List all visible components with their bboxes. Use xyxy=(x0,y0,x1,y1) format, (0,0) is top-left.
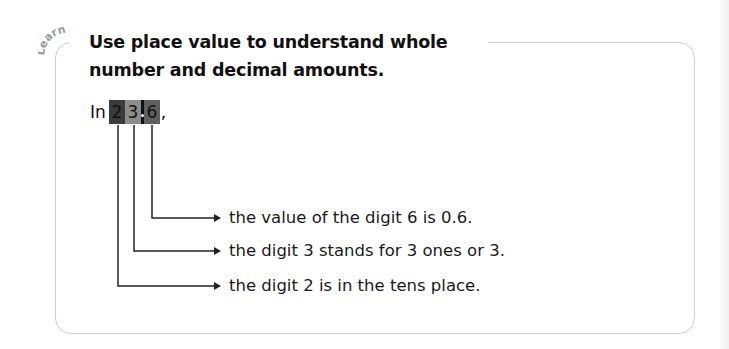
learn-label: Learn xyxy=(38,24,78,58)
example-intro: In xyxy=(90,102,106,122)
digit-tenths: 6 xyxy=(144,100,160,124)
digit-ones: 3 xyxy=(125,100,141,124)
decimal-dot xyxy=(141,114,144,117)
example-comma: , xyxy=(161,102,166,122)
decimal-point xyxy=(141,100,144,124)
digit-tens: 2 xyxy=(109,100,125,124)
statement-ones: the digit 3 stands for 3 ones or 3. xyxy=(229,241,505,261)
svg-text:Learn: Learn xyxy=(38,24,67,56)
statement-tens: the digit 2 is in the tens place. xyxy=(229,276,481,296)
page-edge-strip xyxy=(720,0,729,349)
example-number: In 2 3 6 , xyxy=(90,100,166,124)
learn-label-text: Learn xyxy=(38,24,67,56)
section-title: Use place value to understand whole numb… xyxy=(89,28,509,84)
statement-tenths: the value of the digit 6 is 0.6. xyxy=(229,208,473,228)
